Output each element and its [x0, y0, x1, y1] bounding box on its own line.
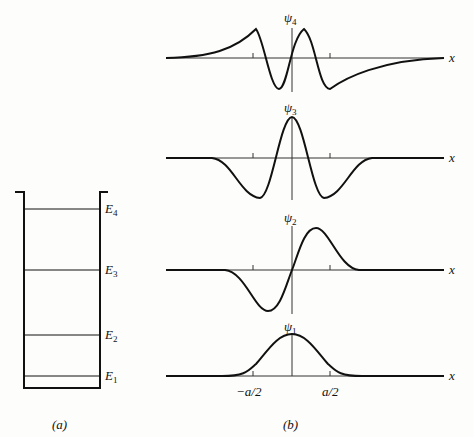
x-axis-label-psi4: x — [449, 51, 455, 64]
caption-b: (b) — [283, 418, 298, 431]
figure: E4 E3 E2 E1 (a) ψ4 ψ3 ψ2 ψ1 x x x x −a/2… — [0, 0, 474, 437]
wavefunctions — [166, 29, 444, 376]
psi4-curve — [166, 29, 444, 89]
psi3-label: ψ3 — [284, 101, 297, 117]
caption-a: (a) — [52, 418, 67, 431]
energy-label-e2: E2 — [105, 328, 117, 344]
energy-label-e3: E3 — [105, 263, 117, 279]
psi1-curve — [166, 334, 444, 376]
psi1-label: ψ1 — [284, 320, 297, 336]
x-axis-label-psi3: x — [449, 151, 455, 164]
energy-label-e1: E1 — [105, 369, 117, 385]
potential-well — [15, 192, 108, 388]
energy-label-e4: E4 — [105, 202, 117, 218]
psi4-label: ψ4 — [284, 11, 297, 27]
axes — [166, 28, 444, 376]
figure-graphics — [0, 0, 474, 437]
tick-label-neg-a-half: −a/2 — [236, 385, 261, 398]
psi2-label: ψ2 — [284, 211, 297, 227]
x-axis-label-psi2: x — [449, 263, 455, 276]
x-axis-label-psi1: x — [449, 369, 455, 382]
tick-label-a-half: a/2 — [322, 385, 339, 398]
